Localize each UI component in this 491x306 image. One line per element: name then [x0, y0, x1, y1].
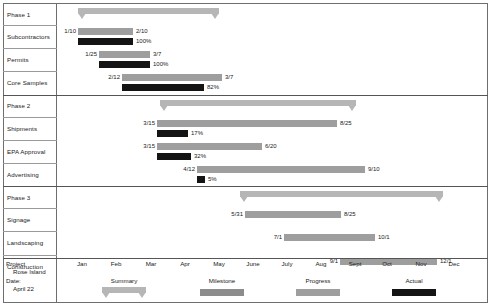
task-start-label: 3/15 — [143, 143, 155, 150]
summary-bar-phase-1 — [78, 8, 219, 19]
date-caption: Date: — [6, 277, 57, 285]
group-divider — [3, 258, 488, 259]
summary-bar-body — [78, 8, 219, 14]
progress-bar — [157, 120, 337, 127]
group-divider — [3, 186, 488, 187]
axis-tick-nov: Nov — [415, 260, 426, 267]
summary-bar-body — [240, 191, 443, 197]
summary-cap-left — [160, 105, 168, 111]
axis-tick-feb: Feb — [111, 260, 122, 267]
legend-label-milestone: Milestone — [209, 277, 235, 284]
axis-tick-apr: Apr — [180, 260, 190, 267]
actual-bar — [157, 153, 191, 160]
legend-swatch-actual — [392, 289, 436, 296]
legend-swatch-progress — [296, 289, 340, 296]
summary-bar-phase-3 — [240, 191, 443, 202]
actual-bar — [78, 38, 133, 45]
row-label-task: EPA Approval — [3, 140, 57, 163]
percent-complete-label: 17% — [191, 130, 203, 137]
progress-bar — [122, 74, 222, 81]
task-end-label: 6/20 — [265, 143, 277, 150]
progress-bar — [157, 143, 262, 150]
summary-cap-right — [348, 105, 356, 111]
row-label-task: Permits — [3, 48, 57, 71]
group-divider — [3, 95, 488, 96]
row-label-task: Advertising — [3, 163, 57, 186]
percent-complete-label: 100% — [136, 38, 151, 45]
row-label-task: Core Samples — [3, 71, 57, 94]
date-value: April 22 — [6, 285, 57, 293]
progress-bar — [78, 28, 133, 35]
summary-bar-body — [160, 100, 356, 106]
axis-tick-jan: Jan — [77, 260, 87, 267]
percent-complete-label: 82% — [207, 84, 219, 91]
row-label-task: Shipments — [3, 117, 57, 140]
legend-label-summary: Summary — [111, 277, 137, 284]
actual-bar — [197, 176, 205, 183]
task-end-label: 9/10 — [368, 166, 380, 173]
progress-bar — [197, 166, 365, 173]
task-start-label: 2/12 — [108, 74, 120, 81]
axis-tick-june: June — [246, 260, 259, 267]
task-end-label: 10/1 — [378, 234, 390, 241]
progress-bar — [99, 51, 150, 58]
summary-cap-right — [435, 196, 443, 202]
task-start-label: 1/10 — [64, 28, 76, 35]
legend-summary-cap-left — [102, 292, 110, 298]
axis-tick-sept: Sept — [349, 260, 362, 267]
task-start-label: 1/25 — [85, 51, 97, 58]
actual-bar — [99, 61, 150, 68]
task-end-label: 8/25 — [344, 211, 356, 218]
task-start-label: 4/12 — [183, 166, 195, 173]
row-label-phase-3: Phase 3 — [3, 186, 57, 208]
legend-summary-cap-right — [138, 292, 146, 298]
percent-complete-label: 5% — [208, 176, 217, 183]
project-caption: Project — [6, 260, 57, 268]
legend-label-actual: Actual — [405, 277, 422, 284]
row-label-task: Landscaping — [3, 231, 57, 254]
actual-bar — [122, 84, 204, 91]
axis-tick-mar: Mar — [146, 260, 157, 267]
legend-label-progress: Progress — [306, 277, 331, 284]
row-label-phase-1: Phase 1 — [3, 3, 57, 25]
task-start-label: 3/15 — [143, 120, 155, 127]
summary-bar-phase-2 — [160, 100, 356, 111]
task-start-label: 5/31 — [231, 211, 243, 218]
axis-tick-dec: Dec — [448, 260, 459, 267]
task-end-label: 3/7 — [225, 74, 233, 81]
task-end-label: 2/10 — [136, 28, 148, 35]
gantt-chart: Phase 1SubcontractorsPermitsCore Samples… — [0, 0, 491, 306]
axis-tick-aug: Aug — [315, 260, 326, 267]
row-label-task: Signage — [3, 208, 57, 231]
progress-bar — [284, 234, 375, 241]
summary-cap-left — [78, 13, 86, 19]
percent-complete-label: 100% — [153, 61, 168, 68]
row-label-phase-2: Phase 2 — [3, 95, 57, 117]
axis-tick-july: July — [281, 260, 292, 267]
summary-cap-left — [240, 196, 248, 202]
task-end-label: 3/7 — [153, 51, 161, 58]
axis-tick-may: May — [213, 260, 225, 267]
legend-swatch-summary — [102, 287, 146, 298]
task-end-label: 8/25 — [340, 120, 352, 127]
summary-cap-right — [211, 13, 219, 19]
row-label-task: Subcontractors — [3, 25, 57, 48]
project-name: Rose Island — [6, 268, 57, 276]
task-start-label: 7/1 — [274, 234, 282, 241]
actual-bar — [157, 130, 188, 137]
percent-complete-label: 32% — [194, 153, 206, 160]
project-info: Project Rose Island Date: April 22 — [3, 258, 57, 303]
time-axis-and-legend: JanFebMarAprMayJuneJulyAugSeptOctNovDecS… — [57, 258, 488, 303]
axis-tick-oct: Oct — [382, 260, 392, 267]
progress-bar — [245, 211, 341, 218]
legend-swatch-milestone — [200, 289, 244, 296]
